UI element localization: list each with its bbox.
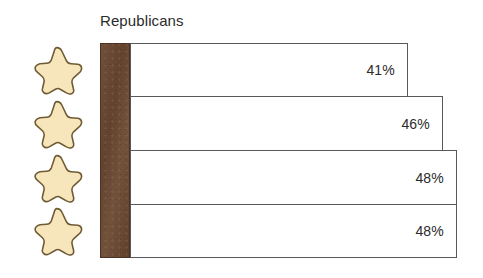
category-icon-cell-4 bbox=[24, 204, 90, 258]
bar-value-label: 46% bbox=[401, 116, 442, 132]
category-icon-cell-3 bbox=[24, 151, 90, 205]
bar-row: 48% bbox=[130, 204, 457, 258]
chart-figure: Republicans 41% 4 bbox=[0, 0, 483, 278]
bar-row: 48% bbox=[130, 150, 457, 205]
bar-value-label: 41% bbox=[366, 62, 407, 78]
bar-value-label: 48% bbox=[415, 223, 456, 239]
category-icon-column bbox=[24, 43, 90, 258]
star-icon bbox=[31, 99, 83, 149]
star-icon bbox=[31, 45, 83, 95]
bar-row: 41% bbox=[130, 43, 408, 97]
category-icon-cell-2 bbox=[24, 97, 90, 151]
page-title: Republicans bbox=[100, 12, 184, 30]
bar-row: 46% bbox=[130, 96, 443, 151]
category-icon-cell-1 bbox=[24, 43, 90, 97]
bar-value-label: 48% bbox=[415, 170, 456, 186]
plot-area: 41% 46% 48% 48% bbox=[100, 43, 458, 258]
star-icon bbox=[31, 206, 83, 256]
axis-band bbox=[100, 43, 130, 258]
star-icon bbox=[31, 153, 83, 203]
